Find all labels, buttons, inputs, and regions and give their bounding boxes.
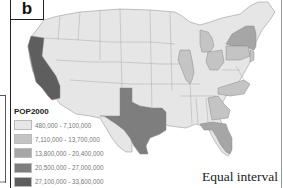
state-new-jersey	[250, 50, 254, 62]
panel-label: b	[11, 0, 44, 20]
legend-swatch	[14, 163, 32, 173]
legend-label: 20,500,000 - 27,000,000	[35, 164, 104, 171]
map-legend: POP2000 480,000 - 7,100,000 7,110,000 - …	[14, 107, 104, 188]
legend-swatch	[14, 134, 32, 144]
state-georgia	[208, 96, 230, 120]
legend-swatch	[14, 177, 32, 187]
adjacent-panel-edge	[0, 95, 6, 183]
legend-label: 13,800,000 - 20,400,000	[35, 150, 104, 157]
legend-label: 7,110,000 - 13,700,000	[35, 136, 100, 143]
legend-item: 13,800,000 - 20,400,000	[14, 146, 104, 160]
adjacent-panel-shadow	[0, 181, 5, 183]
legend-swatch	[14, 120, 32, 130]
legend-label: 27,100,000 - 33,600,000	[35, 178, 104, 185]
legend-title: POP2000	[14, 107, 104, 116]
legend-item: 480,000 - 7,100,000	[14, 118, 104, 132]
legend-swatch	[14, 148, 32, 158]
legend-item: 20,500,000 - 27,000,000	[14, 161, 104, 175]
legend-label: 480,000 - 7,100,000	[35, 122, 91, 129]
legend-item: 7,110,000 - 13,700,000	[14, 132, 104, 146]
legend-item: 27,100,000 - 33,600,000	[14, 175, 104, 188]
classification-method-label: Equal interval	[202, 169, 278, 185]
